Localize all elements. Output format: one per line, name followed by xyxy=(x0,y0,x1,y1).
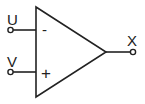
output-x-label: X xyxy=(127,32,137,49)
input-u-label: U xyxy=(7,11,18,28)
input-u-terminal xyxy=(8,27,13,32)
non-inverting-sign: + xyxy=(41,64,51,83)
inverting-sign: - xyxy=(42,21,47,38)
input-v-terminal xyxy=(8,69,13,74)
op-amp-svg: U - V + X xyxy=(0,0,145,104)
op-amp-diagram: U - V + X xyxy=(0,0,145,104)
input-v-label: V xyxy=(7,53,17,70)
output-x-terminal xyxy=(130,49,135,54)
